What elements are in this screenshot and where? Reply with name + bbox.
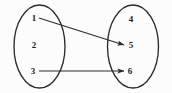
domain-set-ellipse: [14, 5, 65, 88]
mapping-diagram-canvas: [0, 0, 172, 93]
codomain-element-4: 4: [129, 15, 134, 24]
codomain-element-6: 6: [128, 67, 133, 76]
mapping-diagram: 1 2 3 4 5 6: [0, 0, 172, 93]
domain-element-2: 2: [32, 41, 37, 50]
arrow-1-to-5: [39, 18, 124, 45]
domain-element-1: 1: [32, 14, 37, 23]
codomain-element-5: 5: [129, 41, 134, 50]
domain-element-3: 3: [31, 67, 36, 76]
